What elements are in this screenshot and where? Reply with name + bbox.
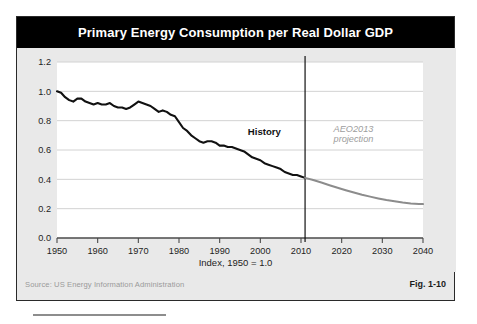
source-note: Source: US Energy Information Administra…: [25, 280, 184, 289]
x-axis-tick-label: 2030: [372, 246, 392, 256]
page-title: Primary Energy Consumption per Real Doll…: [78, 25, 393, 40]
figure-number: Fig. 1-10: [409, 279, 446, 289]
annotation-projection2: projection: [333, 134, 374, 144]
figure-footer: Index, 1950 = 1.0 Source: US Energy Info…: [17, 271, 454, 300]
energy-intensity-line-chart: 0.00.20.40.60.81.01.21950196019701980199…: [17, 48, 456, 272]
x-axis-tick-label: 2040: [413, 246, 433, 256]
y-axis-tick-label: 0.2: [38, 204, 51, 214]
x-axis-tick-label: 2000: [250, 246, 270, 256]
annotation-history: History: [248, 126, 282, 137]
x-axis-tick-label: 1990: [209, 246, 229, 256]
x-axis-tick-label: 1950: [47, 246, 67, 256]
y-axis-tick-label: 1.2: [38, 57, 51, 67]
figure-panel: Primary Energy Consumption per Real Doll…: [16, 16, 455, 301]
x-axis-tick-label: 1970: [128, 246, 148, 256]
axis-caption: Index, 1950 = 1.0: [17, 257, 454, 268]
chart-plot-area: 0.00.20.40.60.81.01.21950196019701980199…: [17, 48, 454, 272]
y-axis-tick-label: 0.6: [38, 145, 51, 155]
y-axis-tick-label: 0.0: [38, 233, 51, 243]
x-axis-tick-label: 2010: [291, 246, 311, 256]
x-axis-tick-label: 1980: [169, 246, 189, 256]
y-axis-tick-label: 0.4: [38, 175, 51, 185]
x-axis-tick-label: 1960: [87, 246, 107, 256]
y-axis-tick-label: 0.8: [38, 116, 51, 126]
page-divider-rule: [33, 314, 166, 316]
x-axis-tick-label: 2020: [331, 246, 351, 256]
annotation-projection: AEO2013: [333, 124, 375, 134]
figure-title-bar: Primary Energy Consumption per Real Doll…: [17, 17, 454, 48]
y-axis-tick-label: 1.0: [38, 87, 51, 97]
